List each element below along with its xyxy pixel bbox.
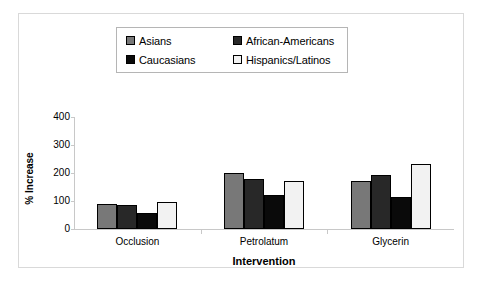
bar[interactable] bbox=[224, 173, 244, 229]
x-axis-category-labels: OcclusionPetrolatumGlycerin bbox=[74, 236, 454, 250]
bar[interactable] bbox=[284, 181, 304, 229]
legend-swatch-african-americans-icon bbox=[233, 36, 242, 45]
x-category-label: Occlusion bbox=[74, 236, 201, 248]
y-tick-label: 200 bbox=[53, 168, 70, 178]
y-tick-label: 400 bbox=[53, 112, 70, 122]
legend-swatch-asians-icon bbox=[126, 36, 135, 45]
y-tick-label: 300 bbox=[53, 140, 70, 150]
legend-label-hispanics-latinos: Hispanics/Latinos bbox=[246, 54, 331, 66]
x-axis-title: Intervention bbox=[74, 255, 454, 267]
y-axis-title: % Increase bbox=[22, 128, 36, 228]
bar-group-glycerin bbox=[327, 117, 454, 229]
legend-item-african-americans[interactable]: African-Americans bbox=[227, 35, 347, 47]
plot-wrapper: Asians African-Americans Caucasians Hisp… bbox=[18, 13, 464, 268]
legend-swatch-caucasians-icon bbox=[126, 55, 135, 64]
legend-label-caucasians: Caucasians bbox=[139, 54, 195, 66]
legend-label-african-americans: African-Americans bbox=[246, 35, 334, 47]
x-axis-separator bbox=[327, 230, 328, 234]
legend-grid: Asians African-Americans Caucasians Hisp… bbox=[117, 31, 347, 69]
bar-group-petrolatum bbox=[201, 117, 328, 229]
x-axis-line bbox=[74, 229, 454, 230]
chart-legend: Asians African-Americans Caucasians Hisp… bbox=[116, 27, 348, 73]
bar[interactable] bbox=[137, 213, 157, 229]
y-tick-label: 100 bbox=[53, 196, 70, 206]
legend-item-hispanics-latinos[interactable]: Hispanics/Latinos bbox=[227, 54, 347, 66]
bar[interactable] bbox=[371, 175, 391, 229]
bar[interactable] bbox=[391, 197, 411, 229]
y-axis-title-text: % Increase bbox=[24, 152, 35, 204]
legend-item-asians[interactable]: Asians bbox=[117, 35, 227, 47]
legend-item-caucasians[interactable]: Caucasians bbox=[117, 54, 227, 66]
bar[interactable] bbox=[264, 195, 284, 229]
legend-label-asians: Asians bbox=[139, 35, 171, 47]
bar[interactable] bbox=[351, 181, 371, 229]
plot-area bbox=[74, 117, 454, 230]
bar-chart: Asians African-Americans Caucasians Hisp… bbox=[0, 0, 483, 283]
x-axis-separator bbox=[201, 230, 202, 234]
bar[interactable] bbox=[244, 179, 264, 229]
bar[interactable] bbox=[97, 204, 117, 229]
bar[interactable] bbox=[117, 205, 137, 229]
y-tick-label: 0 bbox=[64, 224, 70, 234]
y-tick-mark bbox=[71, 229, 74, 230]
bar-group-occlusion bbox=[74, 117, 201, 229]
legend-swatch-hispanics-latinos-icon bbox=[233, 55, 242, 64]
x-category-label: Petrolatum bbox=[201, 236, 328, 248]
bar[interactable] bbox=[157, 202, 177, 229]
bar[interactable] bbox=[411, 164, 431, 229]
y-axis-tick-labels: 0100200300400 bbox=[40, 117, 70, 235]
x-category-label: Glycerin bbox=[327, 236, 454, 248]
